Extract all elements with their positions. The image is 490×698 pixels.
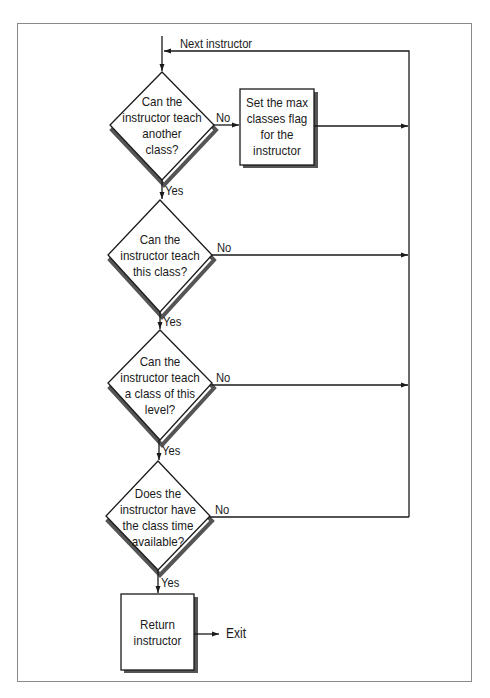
decision-3-text: Can the instructor teach a class of this… bbox=[106, 354, 214, 418]
d4-no-label: No bbox=[215, 502, 229, 517]
d3-no-label: No bbox=[216, 370, 230, 385]
d2-yes-label: Yes bbox=[163, 314, 181, 329]
decision-4-text: Does the instructor have the class time … bbox=[104, 486, 212, 550]
decision-2-text: Can the instructor teach this class? bbox=[106, 232, 214, 280]
d1-no-label: No bbox=[216, 110, 230, 125]
process-2-text: Return instructor bbox=[121, 617, 194, 649]
d3-yes-label: Yes bbox=[162, 443, 180, 458]
d4-yes-label: Yes bbox=[161, 575, 179, 590]
exit-label: Exit bbox=[226, 626, 246, 641]
d1-yes-label: Yes bbox=[165, 183, 183, 198]
next-instructor-label: Next instructor bbox=[180, 36, 252, 51]
decision-1-text: Can the instructor teach another class? bbox=[108, 94, 216, 158]
process-1-text: Set the max classes flag for the instruc… bbox=[240, 95, 314, 159]
d2-no-label: No bbox=[217, 240, 231, 255]
